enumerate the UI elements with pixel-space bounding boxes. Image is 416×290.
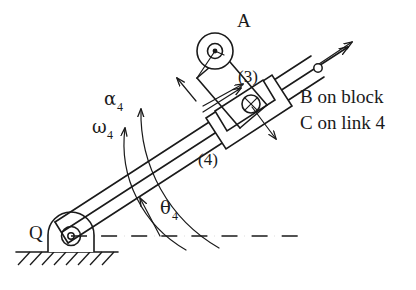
label-alpha4: α 4 [104, 88, 123, 114]
label-c-on-link4: C on link 4 [300, 112, 385, 133]
label-theta4-subscript: 4 [172, 209, 178, 223]
ground-hatching [16, 252, 118, 265]
label-point-a: A [237, 10, 251, 31]
point-marker-on-link4 [314, 64, 322, 72]
label-alpha4-symbol: α [104, 88, 116, 109]
label-omega4-symbol: ω [92, 116, 107, 137]
label-omega4-subscript: 4 [107, 128, 113, 142]
arrow-theta4 [140, 198, 160, 236]
pin-joint-a [197, 33, 233, 78]
angular-arcs [124, 109, 219, 250]
arc-omega4 [124, 128, 186, 250]
label-theta4-symbol: θ [160, 197, 171, 218]
label-theta4: θ 4 [160, 197, 178, 223]
label-b-on-block: B on block [300, 86, 384, 107]
label-omega4: ω 4 [92, 116, 113, 142]
theta4-angle-indicator [140, 198, 160, 236]
ground-pivot-support [48, 212, 94, 252]
label-link-4: (4) [198, 150, 218, 169]
label-alpha4-subscript: 4 [117, 100, 123, 114]
kinematic-diagram: A Q (3) (4) α 4 ω 4 θ 4 B on block C on … [0, 0, 416, 290]
coincident-point-bc [242, 95, 260, 113]
label-point-q: Q [29, 222, 43, 243]
label-link-3: (3) [238, 67, 258, 86]
mechanism-drawing: A Q (3) (4) α 4 ω 4 θ 4 B on block C on … [0, 0, 416, 290]
arrow-link3-axis [177, 78, 196, 101]
arc-alpha4 [141, 109, 219, 248]
